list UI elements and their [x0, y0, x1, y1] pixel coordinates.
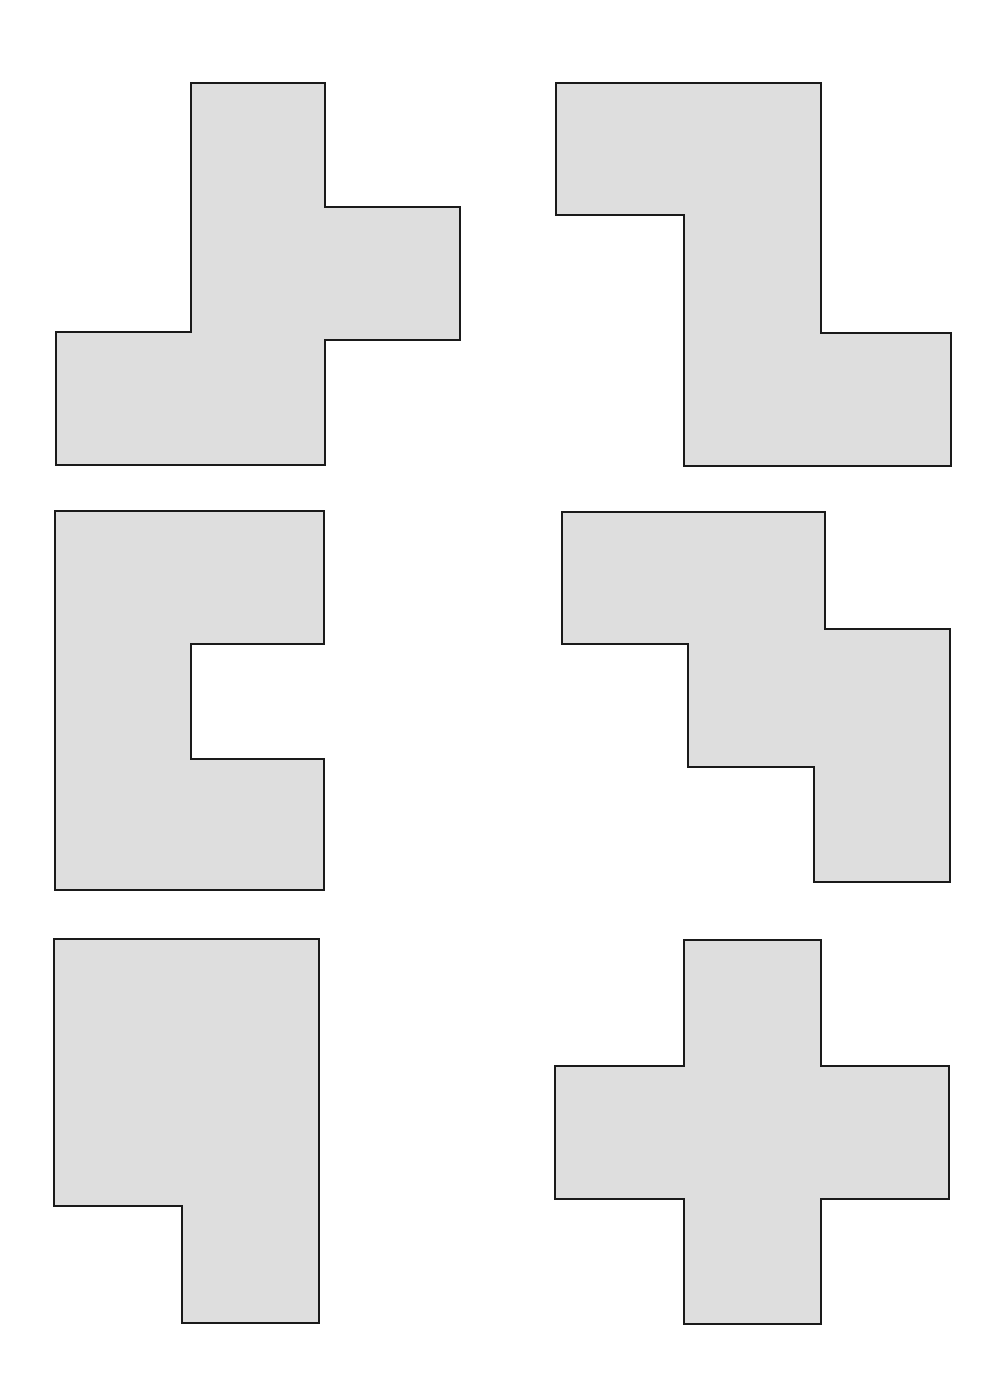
u-pentomino-shape [55, 511, 324, 890]
f-pentomino-shape [56, 83, 460, 465]
w-pentomino-shape [562, 512, 950, 882]
z-pentomino-shape [556, 83, 951, 466]
p-pentomino-shape [54, 939, 319, 1323]
pentomino-diagram [0, 0, 1000, 1394]
x-pentomino-shape [555, 940, 949, 1324]
